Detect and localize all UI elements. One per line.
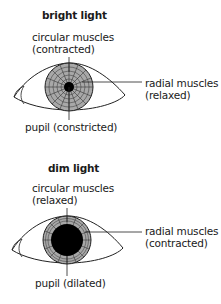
eye-bright-light	[14, 57, 142, 120]
eye-diagrams	[0, 0, 221, 304]
eye-dim-light	[12, 208, 142, 276]
